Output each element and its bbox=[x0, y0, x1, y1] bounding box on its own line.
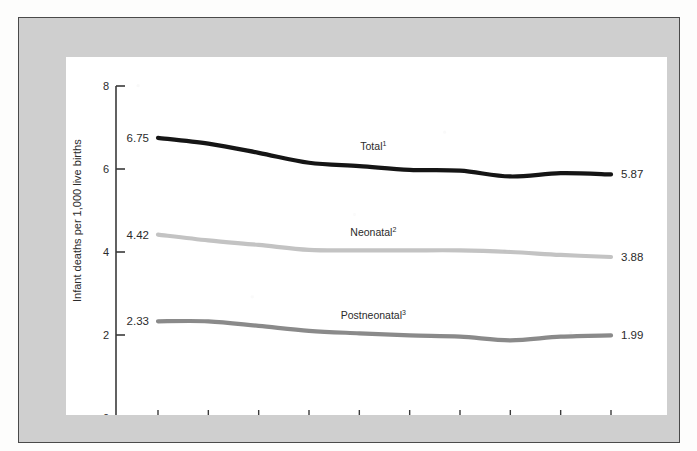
figure-frame: 02468 2007200820092010201120122013201420… bbox=[18, 17, 680, 443]
line-chart: 02468 2007200820092010201120122013201420… bbox=[66, 57, 667, 415]
end-value-neonatal: 3.88 bbox=[621, 251, 643, 263]
y-tick-label: 4 bbox=[103, 246, 109, 258]
y-tick-label: 2 bbox=[103, 329, 109, 341]
y-axis-title: Infant deaths per 1,000 live births bbox=[71, 139, 83, 302]
y-tick-label: 6 bbox=[103, 163, 109, 175]
start-value-total: 6.75 bbox=[127, 132, 149, 144]
footnote-marker: 1 bbox=[382, 140, 386, 147]
x-tick-group: 2007200820092010201120122013201420152016 bbox=[146, 410, 623, 415]
series-label-postneonatal: Postneonatal3 bbox=[341, 309, 406, 321]
end-value-total: 5.87 bbox=[621, 168, 643, 180]
scanned-page: 02468 2007200820092010201120122013201420… bbox=[0, 0, 697, 451]
start-value-neonatal: 4.42 bbox=[127, 229, 149, 241]
footnote-marker: 3 bbox=[402, 309, 406, 316]
start-value-postneonatal: 2.33 bbox=[127, 315, 149, 327]
end-value-postneonatal: 1.99 bbox=[621, 329, 643, 341]
y-tick-label: 8 bbox=[103, 80, 109, 92]
plot-panel: 02468 2007200820092010201120122013201420… bbox=[66, 57, 667, 415]
footnote-marker: 2 bbox=[392, 226, 396, 233]
y-tick-label: 0 bbox=[103, 412, 109, 415]
series-label-total: Total1 bbox=[360, 140, 386, 152]
series-label-neonatal: Neonatal2 bbox=[350, 226, 396, 238]
y-tick-group: 02468 bbox=[103, 80, 125, 415]
series-line-postneonatal bbox=[158, 321, 611, 340]
